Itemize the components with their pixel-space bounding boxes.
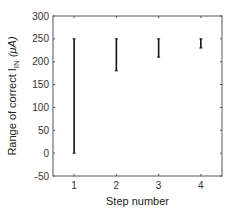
range-bar-step-1 [73,39,76,153]
y-tick-label: 0 [43,148,49,159]
range-bar-step-3 [157,39,160,57]
y-axis-label: Range of correct IIN (μA) [6,36,21,156]
y-tick-label: 50 [38,125,50,136]
range-bar-step-4 [199,39,202,48]
y-tick-label: -50 [35,171,50,182]
range-errorbar-chart: -50050100150200250300 1234 Step number R… [0,0,234,214]
y-axis-label-subscript: IN [12,60,21,68]
x-tick-label: 3 [156,180,162,191]
axes-frame [53,16,222,176]
range-bar-step-2 [115,39,118,71]
y-tick-label: 250 [32,33,49,44]
y-tick-label: 150 [32,79,49,90]
y-tick-label: 300 [32,11,49,22]
y-tick-label: 100 [32,102,49,113]
x-tick-label: 1 [71,180,77,191]
y-axis-label-main: Range of correct I [6,68,18,155]
y-axis-label-unit: (μA) [6,36,18,60]
x-axis-label: Step number [106,195,169,207]
plot-area [53,16,222,176]
y-tick-label: 200 [32,56,49,67]
x-tick-label: 2 [114,180,120,191]
x-tick-label: 4 [198,180,204,191]
range-bars [73,39,203,153]
x-axis: 1234 [71,16,204,191]
y-axis: -50050100150200250300 [32,11,222,182]
